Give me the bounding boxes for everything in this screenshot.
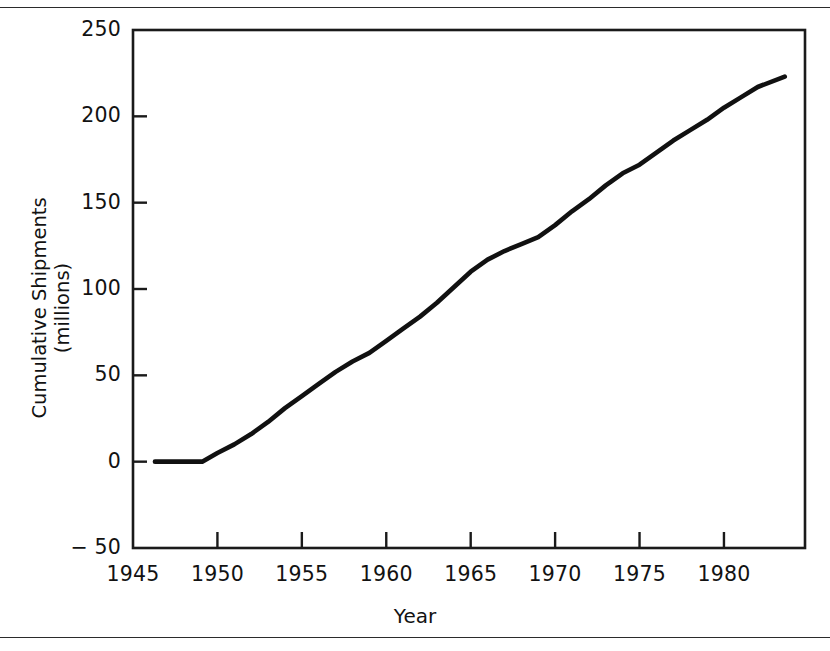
x-axis-ticks (217, 532, 724, 548)
figure-container: 250200150100500− 50 19451950195519601965… (0, 0, 830, 651)
y-tick-label: 200 (81, 103, 121, 127)
y-tick-label: 0 (108, 449, 121, 473)
y-axis-title-line1: Cumulative Shipments (28, 153, 51, 463)
x-tick-label: 1960 (357, 562, 415, 586)
x-tick-label: 1955 (273, 562, 331, 586)
x-tick-label: 1965 (442, 562, 500, 586)
y-tick-label: 250 (81, 17, 121, 41)
x-tick-label: 1945 (104, 562, 162, 586)
y-tick-label: − 50 (70, 535, 121, 559)
y-axis-title-line2: (millions) (51, 153, 74, 463)
y-tick-label: 100 (81, 276, 121, 300)
x-tick-label: 1980 (695, 562, 753, 586)
x-tick-label: 1975 (611, 562, 669, 586)
x-axis-title: Year (0, 604, 830, 628)
chart-plot (0, 0, 830, 651)
y-axis-title: Cumulative Shipments (millions) (28, 153, 76, 463)
plot-frame (133, 30, 805, 548)
y-tick-label: 150 (81, 190, 121, 214)
data-series-line (155, 77, 785, 462)
y-axis-ticks (133, 116, 147, 461)
x-tick-label: 1970 (526, 562, 584, 586)
y-tick-label: 50 (95, 362, 122, 386)
x-tick-label: 1950 (188, 562, 246, 586)
